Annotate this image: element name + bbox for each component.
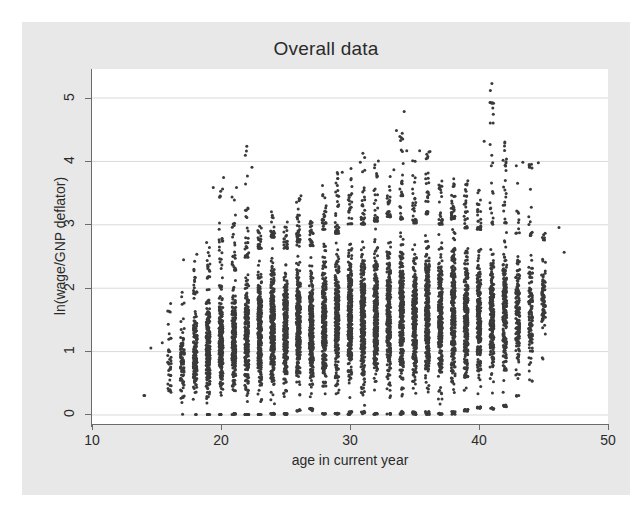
x-tick-mark <box>92 424 93 430</box>
x-tick-mark <box>479 424 480 430</box>
scatter-plot-canvas <box>92 69 608 424</box>
x-tick-mark <box>608 424 609 430</box>
x-axis-title: age in current year <box>92 452 608 468</box>
y-tick-mark <box>85 414 91 415</box>
y-axis-title: ln(wage/GNP deflator) <box>52 116 68 376</box>
x-tick-mark <box>221 424 222 430</box>
y-tick-mark <box>85 98 91 99</box>
x-tick-label: 30 <box>330 432 370 448</box>
y-axis-line <box>91 69 92 427</box>
x-tick-label: 10 <box>72 432 112 448</box>
y-tick-mark <box>85 351 91 352</box>
x-tick-mark <box>350 424 351 430</box>
y-tick-mark <box>85 161 91 162</box>
x-tick-label: 20 <box>201 432 241 448</box>
y-tick-mark <box>85 288 91 289</box>
y-tick-label: 0 <box>61 402 77 424</box>
plot-area <box>92 69 608 424</box>
x-tick-label: 50 <box>588 432 628 448</box>
data-points-group <box>142 82 565 416</box>
screenshot-root: Overall data 1020304050 012345 age in cu… <box>0 0 644 512</box>
y-tick-mark <box>85 224 91 225</box>
chart-title: Overall data <box>22 38 630 60</box>
y-tick-label: 5 <box>61 86 77 108</box>
x-tick-label: 40 <box>459 432 499 448</box>
